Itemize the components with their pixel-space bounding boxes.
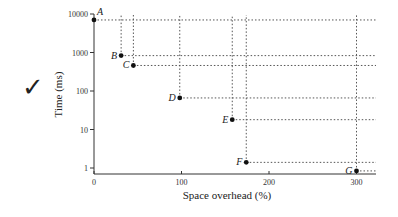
x-tick-label: 200 bbox=[263, 178, 275, 187]
data-point-c bbox=[131, 63, 136, 68]
dotted-guide-lines bbox=[94, 15, 376, 171]
y-tick-label: 100 bbox=[76, 87, 88, 96]
point-label: A bbox=[96, 6, 104, 17]
point-label: E bbox=[221, 114, 228, 125]
x-tick-label: 100 bbox=[176, 178, 188, 187]
data-point-e bbox=[230, 117, 235, 122]
data-point-f bbox=[244, 160, 249, 165]
data-point-g bbox=[354, 169, 359, 174]
scatter-chart: 0100200300110100100010000Space overhead … bbox=[0, 0, 398, 217]
point-label: C bbox=[123, 59, 130, 70]
y-tick-label: 10 bbox=[80, 126, 88, 135]
point-label: B bbox=[111, 50, 117, 61]
x-tick-label: 300 bbox=[351, 178, 363, 187]
point-label: G bbox=[345, 165, 352, 176]
data-point-d bbox=[177, 96, 182, 101]
y-tick-label: 1000 bbox=[72, 49, 88, 58]
y-tick-label: 1 bbox=[84, 164, 88, 173]
data-point-a bbox=[92, 18, 97, 23]
point-label: D bbox=[168, 92, 177, 103]
y-axis-title: Time (ms) bbox=[52, 71, 65, 117]
x-tick-label: 0 bbox=[92, 178, 96, 187]
point-label: F bbox=[235, 156, 243, 167]
axes: 0100200300110100100010000Space overhead … bbox=[52, 10, 376, 202]
x-axis-title: Space overhead (%) bbox=[183, 189, 272, 202]
data-points: ABCDEFG bbox=[92, 6, 359, 176]
y-tick-label: 10000 bbox=[68, 10, 88, 19]
data-point-b bbox=[119, 53, 124, 58]
